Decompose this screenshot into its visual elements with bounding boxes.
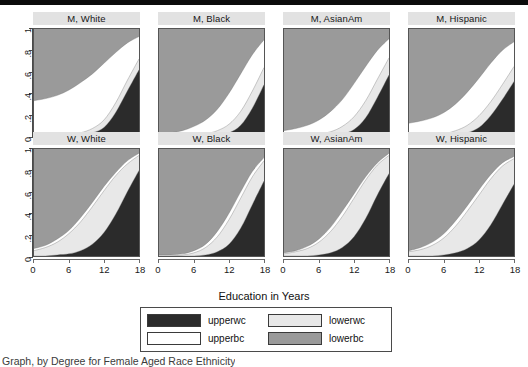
x-axis-tick-label: 12 xyxy=(224,264,235,275)
x-axis-tick-label: 6 xyxy=(191,264,196,275)
panel-title-strip: M, Hispanic xyxy=(408,12,515,25)
x-axis-tick xyxy=(33,259,34,263)
panel-m-asianam: M, AsianAm xyxy=(283,12,390,137)
panel-title-strip: W, Black xyxy=(158,132,265,145)
y-axis-tick-label: .6 xyxy=(23,72,33,80)
x-axis-tick xyxy=(158,259,159,263)
x-axis-tick-label: 18 xyxy=(260,264,271,275)
panel-w-hispanic: W, Hispanic xyxy=(408,132,515,257)
panel-m-black: M, Black xyxy=(158,12,265,137)
x-axis-tick-label: 12 xyxy=(349,264,360,275)
x-axis-tick xyxy=(264,259,265,263)
x-axis-spine xyxy=(158,259,265,260)
legend-swatch-upperbc xyxy=(147,332,201,345)
x-axis-tick xyxy=(104,259,105,263)
x-axis-tick xyxy=(139,259,140,263)
legend-box: upperwclowerwcupperbclowerbc xyxy=(140,307,392,352)
x-axis-tick-label: 0 xyxy=(280,264,285,275)
x-axis-col-2: 061218 xyxy=(283,259,390,275)
x-axis-tick xyxy=(514,259,515,263)
legend-item-upperwc[interactable]: upperwc xyxy=(147,314,264,327)
legend-item-upperbc[interactable]: upperbc xyxy=(147,332,264,345)
panel-title-strip: M, AsianAm xyxy=(283,12,390,25)
y-axis-row-men: 0.2.4.6.81 xyxy=(11,28,33,137)
legend-label: upperbc xyxy=(208,333,244,344)
x-axis-tick xyxy=(408,259,409,263)
panel-title-strip: M, White xyxy=(33,12,140,25)
legend-swatch-lowerbc xyxy=(268,332,322,345)
x-axis-tick-label: 6 xyxy=(441,264,446,275)
figure-caption: Graph, by Degree for Female Aged Race Et… xyxy=(2,355,235,367)
y-axis-tick-label: .8 xyxy=(23,170,33,178)
y-axis-tick-label: .6 xyxy=(23,192,33,200)
y-axis-row-women: 0.2.4.6.81 xyxy=(11,148,33,257)
y-axis-tick-label: 0 xyxy=(23,257,33,262)
y-axis-tick-label: .8 xyxy=(23,50,33,58)
panel-m-white: M, White xyxy=(33,12,140,137)
y-axis-tick-label: .2 xyxy=(23,235,33,243)
x-axis-title: Education in Years xyxy=(0,290,528,302)
y-axis-tick-label: 1 xyxy=(23,28,33,33)
x-axis-tick-label: 18 xyxy=(510,264,521,275)
legend-item-lowerbc[interactable]: lowerbc xyxy=(268,332,385,345)
legend-swatch-lowerwc xyxy=(268,314,322,327)
x-axis-tick xyxy=(319,259,320,263)
x-axis-tick xyxy=(389,259,390,263)
x-axis-tick xyxy=(444,259,445,263)
plot-area xyxy=(283,148,390,257)
x-axis-tick xyxy=(69,259,70,263)
y-axis-tick-label: 0 xyxy=(23,137,33,142)
y-axis-tick-label: .4 xyxy=(23,213,33,221)
legend-label: upperwc xyxy=(208,315,246,326)
x-axis-tick-label: 6 xyxy=(66,264,71,275)
figure-panel-grid: 0.2.4.6.81 0.2.4.6.81 M, WhiteM, BlackM,… xyxy=(0,5,528,358)
x-axis-spine xyxy=(283,259,390,260)
x-axis-spine xyxy=(408,259,515,260)
legend-swatch-upperwc xyxy=(147,314,201,327)
x-axis-col-0: 061218 xyxy=(33,259,140,275)
x-axis-tick xyxy=(194,259,195,263)
y-axis-tick-label: .2 xyxy=(23,115,33,123)
legend-label: lowerbc xyxy=(329,333,363,344)
plot-area xyxy=(283,28,390,137)
panel-title-strip: M, Black xyxy=(158,12,265,25)
x-axis-tick xyxy=(354,259,355,263)
plot-area xyxy=(408,28,515,137)
panel-title-strip: W, AsianAm xyxy=(283,132,390,145)
panel-w-asianam: W, AsianAm xyxy=(283,132,390,257)
panel-title-strip: W, White xyxy=(33,132,140,145)
legend-item-lowerwc[interactable]: lowerwc xyxy=(268,314,385,327)
x-axis-col-1: 061218 xyxy=(158,259,265,275)
plot-area xyxy=(33,28,140,137)
x-axis-tick-label: 12 xyxy=(474,264,485,275)
panel-m-hispanic: M, Hispanic xyxy=(408,12,515,137)
panel-title-strip: W, Hispanic xyxy=(408,132,515,145)
panel-w-black: W, Black xyxy=(158,132,265,257)
x-axis-col-3: 061218 xyxy=(408,259,515,275)
x-axis-tick-label: 18 xyxy=(385,264,396,275)
plot-area xyxy=(33,148,140,257)
panel-w-white: W, White xyxy=(33,132,140,257)
x-axis-tick-label: 18 xyxy=(135,264,146,275)
plot-area xyxy=(158,28,265,137)
x-axis-tick xyxy=(229,259,230,263)
x-axis-tick xyxy=(479,259,480,263)
legend-label: lowerwc xyxy=(329,315,365,326)
y-axis-tick-label: 1 xyxy=(23,148,33,153)
x-axis-tick-label: 0 xyxy=(30,264,35,275)
x-axis-spine xyxy=(33,259,140,260)
x-axis-tick-label: 0 xyxy=(405,264,410,275)
plot-area xyxy=(408,148,515,257)
x-axis-tick-label: 12 xyxy=(99,264,110,275)
x-axis-tick-label: 0 xyxy=(155,264,160,275)
x-axis-tick-label: 6 xyxy=(316,264,321,275)
plot-area xyxy=(158,148,265,257)
x-axis-tick xyxy=(283,259,284,263)
y-axis-tick-label: .4 xyxy=(23,93,33,101)
